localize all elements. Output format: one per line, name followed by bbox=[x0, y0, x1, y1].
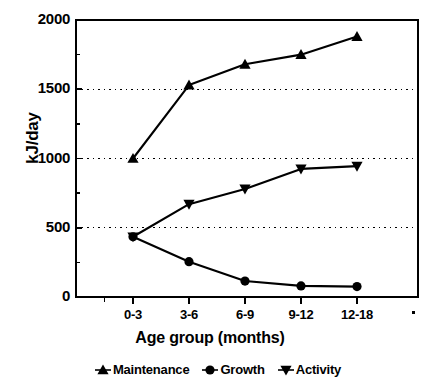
stray-artifact-dot bbox=[412, 311, 415, 314]
series-growth bbox=[128, 232, 361, 291]
y-tick-label: 1000 bbox=[14, 149, 70, 166]
y-tick-label: 500 bbox=[14, 218, 70, 235]
legend-label: Activity bbox=[296, 362, 341, 377]
triangle-down-marker-icon bbox=[278, 363, 292, 377]
data-series-layer bbox=[127, 31, 362, 291]
chart-container: kJ/day 0500100015002000 0-33-66-99-1212-… bbox=[0, 0, 436, 392]
y-axis-title: kJ/day bbox=[23, 83, 43, 193]
legend-item-maintenance[interactable]: Maintenance bbox=[95, 362, 190, 377]
y-tick-label: 2000 bbox=[14, 10, 70, 27]
triangle-up-marker-icon bbox=[95, 363, 109, 377]
legend-label: Growth bbox=[220, 362, 264, 377]
x-tick-label: 0-3 bbox=[103, 307, 163, 322]
chart-legend: MaintenanceGrowthActivity bbox=[0, 362, 436, 377]
x-tick-label: 3-6 bbox=[159, 307, 219, 322]
gridlines bbox=[76, 89, 418, 228]
x-axis-title: Age group (months) bbox=[0, 329, 420, 347]
x-tick-label: 9-12 bbox=[271, 307, 331, 322]
legend-item-growth[interactable]: Growth bbox=[202, 362, 264, 377]
legend-label: Maintenance bbox=[113, 362, 190, 377]
axis-ticks bbox=[76, 20, 357, 304]
y-tick-label: 0 bbox=[14, 287, 70, 304]
series-activity bbox=[127, 162, 362, 243]
legend-item-activity[interactable]: Activity bbox=[278, 362, 341, 377]
x-tick-label: 12-18 bbox=[327, 307, 387, 322]
circle-marker-icon bbox=[202, 363, 216, 377]
y-tick-label: 1500 bbox=[14, 79, 70, 96]
series-maintenance bbox=[127, 31, 362, 163]
x-tick-label: 6-9 bbox=[215, 307, 275, 322]
